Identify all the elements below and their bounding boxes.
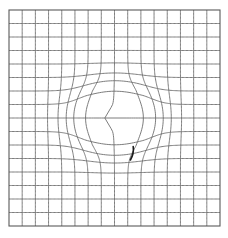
deformed-grid-figure: Deformed grid with central radial expans…	[0, 0, 228, 238]
grid-line	[9, 132, 220, 145]
grid-line	[9, 91, 220, 104]
grid-lines-group	[9, 10, 220, 226]
figure-root: Deformed grid with central radial expans…	[0, 0, 228, 238]
